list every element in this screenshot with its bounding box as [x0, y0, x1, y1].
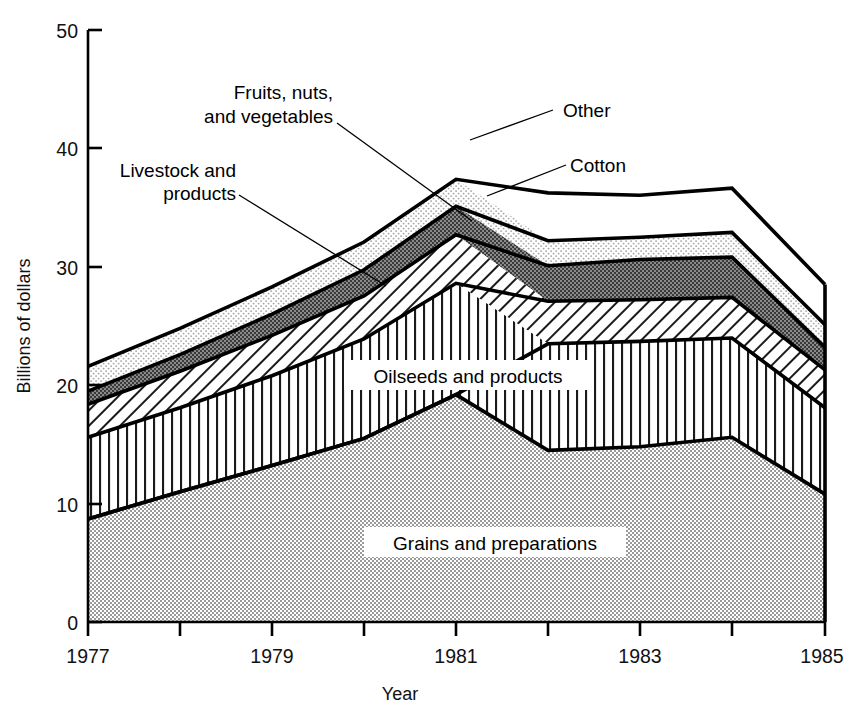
x-tick-label-1981: 1981	[434, 645, 477, 667]
x-tick-label-1985: 1985	[800, 645, 844, 667]
label-grains: Grains and preparations	[393, 533, 597, 554]
y-axis-title: Billions of dollars	[14, 258, 34, 393]
label-other: Other	[563, 100, 611, 121]
inband-label-oilseeds: Oilseeds and products	[344, 360, 592, 390]
x-tick-label-1983: 1983	[618, 645, 661, 667]
callout-labels: Fruits, nuts, and vegetables Livestock a…	[120, 82, 626, 204]
x-tick-labels: 1977 1979 1981 1983 1985	[66, 645, 844, 667]
chart-figure: 50 40 30 20 10 0 1977 1979 1981 1983 198…	[0, 0, 864, 720]
label-livestock-line2: products	[163, 183, 236, 204]
y-tick-label-50: 50	[56, 20, 78, 42]
leader-fruits	[337, 123, 472, 221]
inband-label-grains: Grains and preparations	[364, 527, 626, 557]
leader-other	[470, 110, 553, 140]
y-tick-label-40: 40	[56, 138, 78, 160]
y-tick-label-20: 20	[56, 375, 78, 397]
stacked-area-chart: 50 40 30 20 10 0 1977 1979 1981 1983 198…	[0, 0, 864, 720]
y-tick-labels: 50 40 30 20 10 0	[56, 20, 78, 634]
label-fruits-line1: Fruits, nuts,	[234, 82, 333, 103]
label-cotton: Cotton	[570, 155, 626, 176]
y-tick-label-30: 30	[56, 257, 78, 279]
x-tick-label-1979: 1979	[250, 645, 293, 667]
y-tick-label-10: 10	[56, 494, 78, 516]
label-fruits-line2: and vegetables	[204, 106, 333, 127]
y-tick-label-0: 0	[67, 612, 78, 634]
label-oilseeds: Oilseeds and products	[373, 366, 562, 387]
x-tick-label-1977: 1977	[66, 645, 109, 667]
x-axis-title: Year	[382, 684, 418, 704]
label-livestock-line1: Livestock and	[120, 160, 236, 181]
